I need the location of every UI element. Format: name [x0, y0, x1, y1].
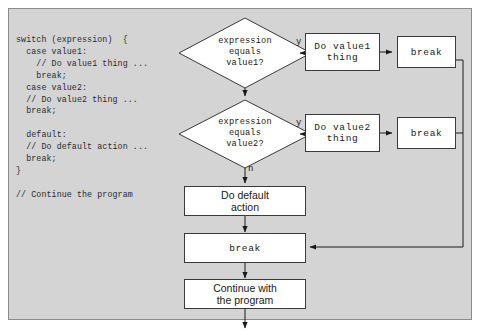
do-value1-thing-line1: Do value1 [314, 41, 371, 52]
process-break-value2: break [397, 117, 456, 149]
decision-value2-no-label: n [248, 164, 253, 174]
decision-value2-line3: value2? [195, 139, 295, 150]
continue-program-line1: Continue with [213, 282, 277, 295]
do-default-action-line2: action [231, 201, 259, 214]
decision-value1-line3: value1? [195, 58, 295, 69]
decision-value2-line1: expression [195, 117, 295, 128]
decision-value1-line1: expression [195, 36, 295, 47]
decision-value1-yes-label: y [296, 37, 301, 47]
do-value2-thing-line2: thing [327, 133, 359, 144]
decision-value2-label: expression equals value2? [195, 117, 295, 150]
flowchart-canvas: switch (expression) { case value1: // Do… [0, 0, 479, 335]
do-default-action-line1: Do default [221, 189, 269, 202]
process-break-value1: break [397, 36, 456, 68]
break-value1-label: break [411, 47, 443, 58]
decision-value1-label: expression equals value1? [195, 36, 295, 69]
decision-value2-line2: equals [195, 128, 295, 139]
process-do-value2-thing: Do value2 thing [305, 114, 380, 152]
switch-code-block: switch (expression) { case value1: // Do… [16, 34, 186, 201]
break-value2-label: break [411, 128, 443, 139]
do-value1-thing-line2: thing [327, 52, 359, 63]
break-default-label: break [229, 243, 261, 254]
decision-value2-yes-label: y [296, 118, 301, 128]
process-continue-program: Continue with the program [184, 279, 306, 309]
process-break-default: break [184, 233, 306, 263]
process-do-value1-thing: Do value1 thing [305, 33, 380, 71]
continue-program-line2: the program [217, 294, 274, 307]
decision-value1-line2: equals [195, 47, 295, 58]
process-do-default-action: Do default action [184, 186, 306, 216]
do-value2-thing-line1: Do value2 [314, 122, 371, 133]
